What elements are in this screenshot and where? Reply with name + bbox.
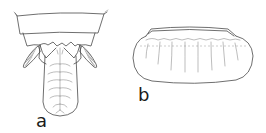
panel-b-drawing (133, 27, 253, 83)
panel-label-a: a (36, 112, 47, 130)
panel-a-drawing (14, 10, 108, 116)
figure-plate: a b (0, 0, 266, 133)
panel-label-b: b (138, 86, 149, 104)
